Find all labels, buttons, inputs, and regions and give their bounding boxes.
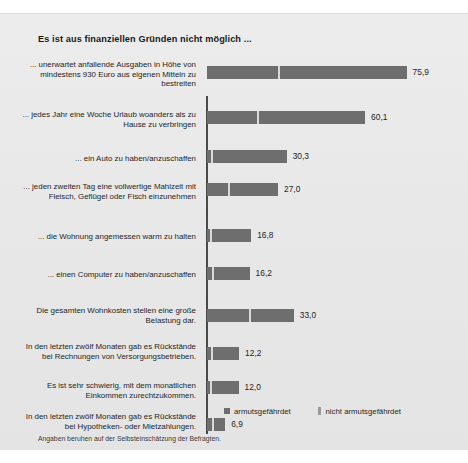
stacked-bar xyxy=(207,111,365,124)
category-label: ... die Wohnung angemessen warm zu halte… xyxy=(16,232,196,242)
stacked-bar xyxy=(207,150,287,163)
stacked-bar xyxy=(207,66,407,79)
bar-value-label: 12,2 xyxy=(245,348,261,358)
legend-swatch-square-icon xyxy=(224,408,230,414)
category-label: ... jeden zweiten Tag eine vollwertige M… xyxy=(16,182,196,201)
bar-segment-armutsgefaehrdet xyxy=(207,66,278,79)
category-label: In den letzten zwölf Monaten gab es Rück… xyxy=(16,342,196,361)
stacked-bar xyxy=(207,267,250,280)
bar-value-label: 75,9 xyxy=(413,67,429,77)
legend-label-1: nicht armutsgefährdet xyxy=(326,407,401,416)
legend-label-0: armutsgefährdet xyxy=(234,407,291,416)
legend-swatch-bar-icon xyxy=(318,407,321,415)
stacked-bar xyxy=(207,183,278,196)
stacked-bar xyxy=(207,381,239,394)
bar-value-label: 27,0 xyxy=(284,184,300,194)
bar-value-label: 60,1 xyxy=(371,112,387,122)
bar-segment-nicht-armutsgefaehrdet xyxy=(212,381,239,394)
stacked-bar xyxy=(207,309,294,322)
bar-segment-nicht-armutsgefaehrdet xyxy=(213,347,240,360)
bar-segment-nicht-armutsgefaehrdet xyxy=(251,309,294,322)
chart-footnote: Angaben beruhen auf der Selbsteinschätzu… xyxy=(38,435,221,442)
category-label: ... einen Computer zu haben/anzuschaffen xyxy=(16,270,196,280)
bar-value-label: 33,0 xyxy=(300,310,316,320)
bar-segment-armutsgefaehrdet xyxy=(207,309,249,322)
stacked-bar xyxy=(207,347,239,360)
stacked-bar xyxy=(207,229,251,242)
chart-legend: armutsgefährdet nicht armutsgefährdet xyxy=(0,407,468,421)
legend-item-nicht-armutsgefaehrdet: nicht armutsgefährdet xyxy=(318,407,401,416)
bar-segment-nicht-armutsgefaehrdet xyxy=(280,66,407,79)
bar-segment-nicht-armutsgefaehrdet xyxy=(214,267,250,280)
bar-value-label: 12,0 xyxy=(245,382,261,392)
category-label: ... ein Auto zu haben/anzuschaffen xyxy=(16,154,196,164)
category-label: Die gesamten Wohnkosten stellen eine gro… xyxy=(16,306,196,325)
plot-area: ... unerwartet anfallende Ausgaben in Hö… xyxy=(0,54,468,394)
bar-segment-nicht-armutsgefaehrdet xyxy=(230,183,278,196)
bar-value-label: 30,3 xyxy=(293,151,309,161)
bar-value-label: 16,2 xyxy=(256,268,272,278)
bar-value-label: 16,8 xyxy=(257,230,273,240)
bar-segment-nicht-armutsgefaehrdet xyxy=(259,111,365,124)
bar-segment-nicht-armutsgefaehrdet xyxy=(213,150,287,163)
bar-segment-armutsgefaehrdet xyxy=(207,183,228,196)
chart-figure: Es ist aus finanziellen Gründen nicht mö… xyxy=(0,13,468,450)
chart-title: Es ist aus finanziellen Gründen nicht mö… xyxy=(38,34,252,44)
category-label: Es ist sehr schwierig, mit dem monatlich… xyxy=(16,381,196,400)
bar-segment-nicht-armutsgefaehrdet xyxy=(212,229,251,242)
category-label: ... jedes Jahr eine Woche Urlaub woander… xyxy=(16,110,196,129)
category-label: ... unerwartet anfallende Ausgaben in Hö… xyxy=(16,60,196,89)
bar-segment-armutsgefaehrdet xyxy=(207,111,257,124)
legend-item-armutsgefaehrdet: armutsgefährdet xyxy=(224,407,291,416)
